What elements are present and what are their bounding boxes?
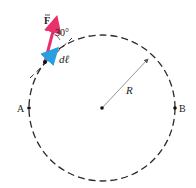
point-a-label: A (17, 103, 25, 114)
point-b-label: B (179, 103, 186, 114)
angle-label: 30° (55, 27, 69, 38)
contact-point (43, 60, 47, 64)
point-b-marker (173, 106, 177, 110)
dl-label: dℓ (59, 53, 70, 65)
diagram-canvas: R F 30° dℓ A B (0, 0, 196, 188)
radius-label: R (125, 84, 133, 96)
radius-line (102, 59, 148, 108)
force-label: F (44, 15, 50, 26)
point-a-marker (27, 106, 31, 110)
center-point (100, 106, 104, 110)
